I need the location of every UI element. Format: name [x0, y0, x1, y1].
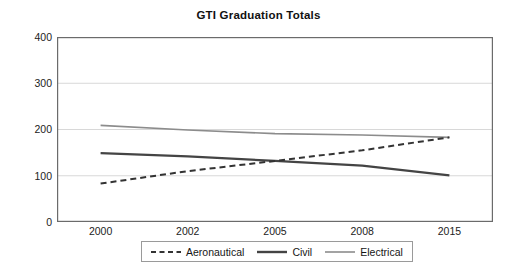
y-axis-tick-label: 400	[20, 32, 52, 42]
y-axis-tick-label: 0	[20, 217, 52, 227]
legend-label: Electrical	[360, 246, 403, 258]
x-axis-tick-label: 2005	[231, 225, 318, 237]
legend-solid-thick-line-icon	[257, 247, 287, 257]
plot-svg	[57, 37, 493, 222]
x-axis-tick-label: 2008	[319, 225, 406, 237]
x-axis-tick-label: 2015	[406, 225, 493, 237]
x-axis-tick-label: 2002	[144, 225, 231, 237]
legend-label: Civil	[292, 246, 312, 258]
series-line-civil	[101, 153, 450, 175]
x-axis-labels: 2000 2002 2005 2008 2015	[57, 225, 493, 241]
legend-item-aeronautical[interactable]: Aeronautical	[151, 246, 244, 258]
line-chart: GTI Graduation Totals 400 300 200 100 0	[0, 0, 517, 276]
legend-dashed-line-icon	[151, 247, 181, 257]
legend-solid-thin-line-icon	[325, 247, 355, 257]
y-axis-labels: 400 300 200 100 0	[18, 0, 52, 276]
series-line-aeronautical	[101, 137, 450, 183]
y-axis-tick-label: 100	[20, 171, 52, 181]
plot-area	[57, 37, 493, 222]
x-axis-tick-label: 2000	[57, 225, 144, 237]
series-line-electrical	[101, 125, 450, 137]
y-axis-tick-label: 300	[20, 78, 52, 88]
legend-item-electrical[interactable]: Electrical	[325, 246, 403, 258]
y-axis-tick-label: 200	[20, 124, 52, 134]
chart-legend: Aeronautical Civil Electrical	[141, 241, 413, 262]
legend-label: Aeronautical	[186, 246, 244, 258]
legend-item-civil[interactable]: Civil	[257, 246, 312, 258]
chart-title: GTI Graduation Totals	[0, 9, 517, 21]
